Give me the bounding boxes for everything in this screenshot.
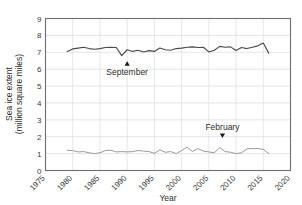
x-tick-2010: 2010 — [219, 173, 238, 192]
x-tick-2005: 2005 — [191, 173, 210, 192]
x-tick-2020: 2020 — [273, 173, 292, 192]
y-tick-6: 6 — [37, 65, 42, 74]
series-line-february — [67, 147, 268, 153]
x-tick-1990: 1990 — [110, 173, 129, 192]
sea-ice-extent-chart: 0123456789 19751980198519901995200020052… — [0, 0, 302, 205]
series-line-september — [67, 43, 268, 56]
chart-canvas: 0123456789 19751980198519901995200020052… — [0, 0, 302, 205]
x-tick-2015: 2015 — [246, 173, 265, 192]
february-series-label: February — [205, 122, 240, 132]
x-tick-1995: 1995 — [137, 173, 156, 192]
y-tick-1: 1 — [37, 150, 42, 159]
x-axis-tick-labels: 1975198019851990199520002005201020152020 — [28, 173, 292, 192]
y-tick-9: 9 — [37, 15, 42, 24]
x-tick-2000: 2000 — [164, 173, 183, 192]
y-tick-7: 7 — [37, 48, 42, 57]
y-axis-title-line2: (million square miles) — [14, 54, 24, 134]
y-axis-tick-labels: 0123456789 — [37, 15, 42, 176]
x-tick-1980: 1980 — [55, 173, 74, 192]
horizontal-gridlines — [46, 35, 291, 153]
y-tick-8: 8 — [37, 31, 42, 40]
plot-frame — [46, 19, 291, 171]
september-series-label: September — [106, 67, 148, 77]
vertical-gridlines — [73, 19, 264, 171]
y-axis-title-line1: Sea ice extent — [4, 66, 14, 121]
x-tick-1975: 1975 — [28, 173, 47, 192]
february-annotation: February — [205, 122, 240, 138]
y-tick-3: 3 — [37, 116, 42, 125]
february-arrow-down-icon — [220, 133, 225, 138]
x-tick-1985: 1985 — [82, 173, 101, 192]
september-annotation: September — [106, 61, 148, 77]
y-tick-4: 4 — [37, 99, 42, 108]
y-tick-5: 5 — [37, 82, 42, 91]
x-axis-title: Year — [159, 193, 176, 203]
y-tick-2: 2 — [37, 133, 42, 142]
september-arrow-up-icon — [125, 61, 130, 66]
